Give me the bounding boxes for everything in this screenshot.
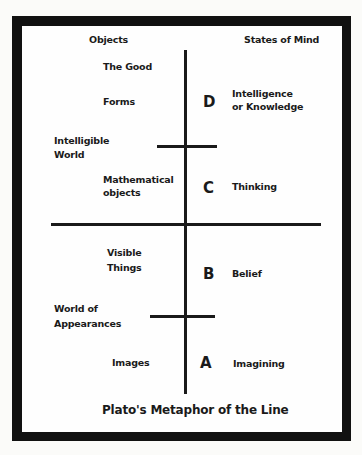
region-world: World — [54, 148, 84, 161]
region-world-of: World of — [54, 302, 98, 315]
upper-crossbar — [157, 145, 217, 148]
state-intelligence: Intelligence — [232, 87, 293, 100]
diagram-caption: Plato's Metaphor of the Line — [102, 403, 288, 417]
state-imagining: Imagining — [233, 357, 285, 370]
states-of-mind-header: States of Mind — [244, 33, 319, 46]
object-visible: Visible — [107, 246, 141, 259]
segment-letter-b: B — [203, 266, 214, 282]
segment-letter-c: C — [203, 180, 214, 196]
state-belief: Belief — [232, 267, 262, 280]
object-objects: objects — [103, 186, 140, 199]
object-the-good: The Good — [103, 60, 152, 73]
segment-letter-d: D — [203, 94, 215, 110]
lower-crossbar — [150, 315, 215, 318]
state-thinking: Thinking — [232, 180, 277, 193]
segment-letter-a: A — [200, 355, 212, 371]
objects-header: Objects — [89, 33, 128, 46]
object-mathematical: Mathematical — [103, 173, 174, 186]
state-or-knowledge: or Knowledge — [232, 100, 303, 113]
object-forms: Forms — [103, 95, 135, 108]
object-images: Images — [112, 356, 150, 369]
region-intelligible: Intelligible — [54, 134, 109, 147]
diagram-frame — [12, 16, 351, 441]
region-appearances: Appearances — [54, 317, 121, 330]
main-vertical-line — [184, 50, 187, 394]
central-divider-line — [51, 223, 321, 226]
object-things: Things — [107, 261, 142, 274]
